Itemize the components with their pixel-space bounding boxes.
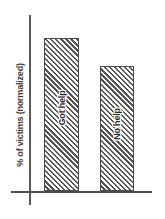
bar-no-help: No help bbox=[100, 66, 134, 191]
x-axis-baseline bbox=[11, 191, 152, 193]
bar-got-help: Got help bbox=[44, 38, 79, 191]
y-axis-line bbox=[29, 15, 31, 205]
bar-chart: % of victims (normalized) Got help No he… bbox=[0, 0, 165, 219]
bar-label-no-help: No help bbox=[112, 108, 122, 140]
y-axis-title: % of victims (normalized) bbox=[15, 63, 25, 167]
bar-label-got-help: Got help bbox=[57, 91, 67, 126]
